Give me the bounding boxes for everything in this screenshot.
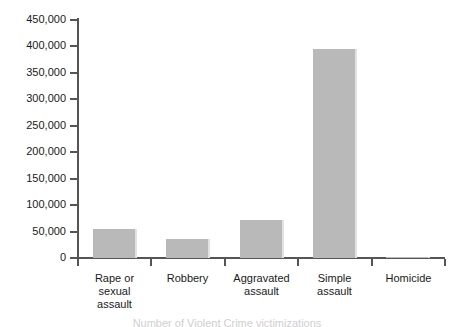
y-axis-tick-label: 350,000 <box>4 67 66 78</box>
y-axis-tick-label: 150,000 <box>4 173 66 184</box>
y-axis-tick-label: 0 <box>4 252 66 263</box>
x-axis-category-label-line: assault <box>225 285 298 298</box>
bar <box>93 229 137 258</box>
y-axis-tick-label: 400,000 <box>4 40 66 51</box>
y-axis-tick-label: 100,000 <box>4 199 66 210</box>
y-axis-tick <box>70 151 78 153</box>
y-axis-line <box>77 18 79 260</box>
y-axis-tick-label: 200,000 <box>4 146 66 157</box>
x-axis-category-label-line: sexual <box>78 285 151 298</box>
x-axis-category-label-line: Aggravated <box>225 272 298 285</box>
y-axis-tick <box>70 125 78 127</box>
y-axis-tick <box>70 204 78 206</box>
x-axis-category-label-line: Rape or <box>78 272 151 285</box>
x-axis-category-label: Robbery <box>151 272 224 285</box>
x-axis-category-label-line: assault <box>298 285 371 298</box>
x-axis-tick <box>77 259 79 266</box>
x-axis-category-label: Aggravatedassault <box>225 272 298 298</box>
y-axis-tick <box>70 231 78 233</box>
x-axis-tick <box>444 259 446 266</box>
x-axis-category-label: Homicide <box>372 272 445 285</box>
y-axis-tick-label: 50,000 <box>4 226 66 237</box>
y-axis-tick <box>70 98 78 100</box>
y-axis-tick <box>70 72 78 74</box>
x-axis-tick <box>371 259 373 266</box>
x-axis-category-label-line: Homicide <box>372 272 445 285</box>
y-axis-tick <box>70 45 78 47</box>
x-axis-category-label-line: Robbery <box>151 272 224 285</box>
x-axis-category-label: Simpleassault <box>298 272 371 298</box>
bar <box>240 220 284 258</box>
chart-caption: Number of Violent Crime victimizations <box>0 317 454 327</box>
bar <box>386 257 430 258</box>
y-axis-tick-label: 250,000 <box>4 120 66 131</box>
bar <box>166 239 210 258</box>
x-axis-category-label-line: assault <box>78 298 151 311</box>
bar <box>313 49 357 258</box>
x-axis-category-label-line: Simple <box>298 272 371 285</box>
y-axis-tick-label: 300,000 <box>4 93 66 104</box>
x-axis-tick <box>297 259 299 266</box>
y-axis-tick <box>70 178 78 180</box>
bar-chart: 050,000100,000150,000200,000250,000300,0… <box>0 0 454 327</box>
y-axis-tick <box>70 19 78 21</box>
x-axis-category-label: Rape orsexualassault <box>78 272 151 311</box>
y-axis-tick-label: 450,000 <box>4 14 66 25</box>
x-axis-tick <box>224 259 226 266</box>
x-axis-tick <box>150 259 152 266</box>
